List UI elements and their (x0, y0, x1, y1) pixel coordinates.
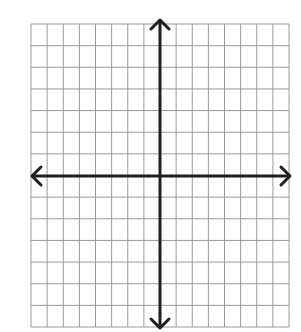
background (0, 0, 301, 332)
coordinate-plane (0, 0, 301, 332)
